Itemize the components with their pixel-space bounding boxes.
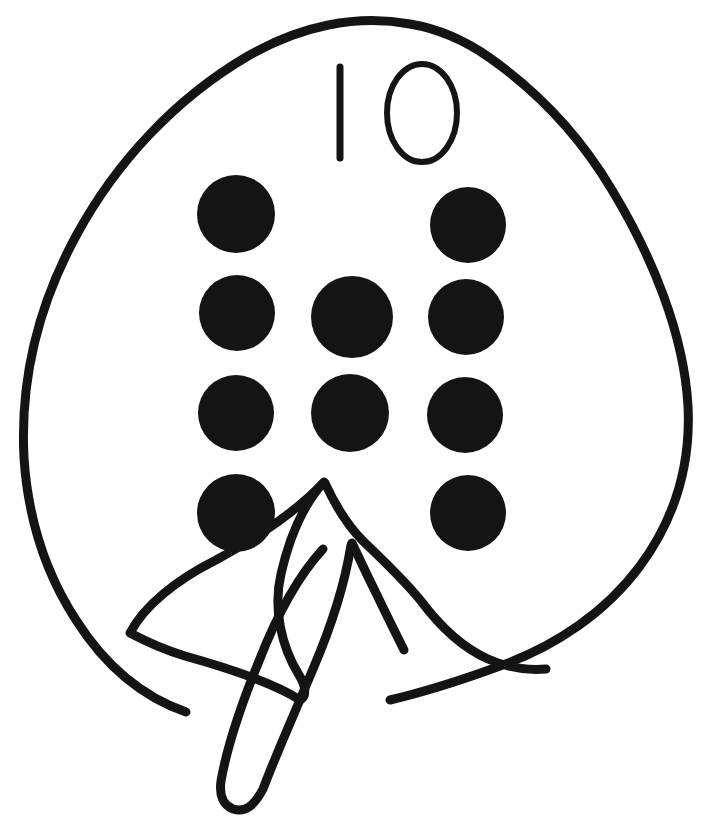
counting-dot — [198, 375, 274, 451]
counting-dot — [430, 187, 506, 263]
dot-row-2 — [199, 275, 504, 358]
counting-dot — [428, 279, 504, 355]
dot-row-3 — [198, 374, 503, 453]
counting-dot — [197, 474, 275, 552]
counting-dot — [430, 475, 506, 551]
counting-dot — [197, 175, 275, 253]
counting-dot — [199, 275, 275, 351]
leaf-counting-illustration — [0, 0, 704, 825]
counting-dot — [427, 377, 503, 453]
counting-dot — [311, 276, 393, 358]
worksheet-canvas: Leaf counting worksheet — [0, 0, 704, 825]
counting-dot — [311, 374, 389, 452]
